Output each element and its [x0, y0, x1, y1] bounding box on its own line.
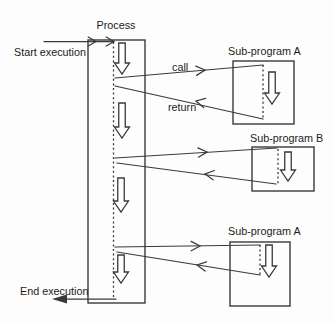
subprogram-a-top-flow-arrow — [265, 72, 280, 104]
flow-diagram-canvas: Process Start execution End execution Su… — [0, 0, 334, 324]
start-execution-label: Start execution — [14, 46, 86, 58]
process-flow-arrow-2 — [115, 103, 130, 138]
process-box — [88, 40, 145, 303]
call-line-1 — [115, 65, 263, 78]
end-execution-label: End execution — [20, 285, 88, 297]
subprogram-a-bottom-label: Sub-program A — [228, 225, 301, 237]
subprogram-b-flow-arrow — [281, 152, 296, 181]
process-flow-arrow-3 — [114, 178, 129, 212]
return-line-3 — [117, 252, 260, 275]
subprogram-b-label: Sub-program B — [250, 132, 323, 144]
return-label: return — [168, 101, 196, 113]
subprogram-a-bottom-flow-arrow — [262, 245, 277, 277]
process-flow-arrow-4 — [114, 255, 129, 283]
process-flow-arrow-1 — [115, 43, 130, 74]
process-label: Process — [96, 19, 136, 31]
call-label: call — [172, 61, 188, 73]
start-execution-arrow — [44, 37, 114, 46]
subroutine-call-diagram: Process Start execution End execution Su… — [0, 0, 334, 324]
call-line-3 — [115, 241, 260, 250]
subprogram-a-top-label: Sub-program A — [228, 45, 301, 57]
subprogram-b-box — [252, 147, 314, 191]
